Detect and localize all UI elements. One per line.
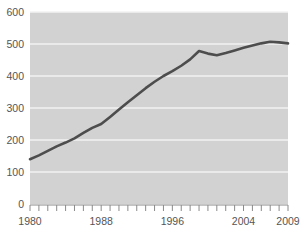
chart-canvas: 0100200300400500600 19801988199620042009 bbox=[0, 0, 304, 235]
y-tick-label-500: 500 bbox=[6, 38, 24, 50]
x-tick-label-1980: 1980 bbox=[18, 215, 42, 227]
y-tick-label-400: 400 bbox=[6, 70, 24, 82]
y-tick-label-0: 0 bbox=[18, 198, 24, 210]
x-tick-label-1988: 1988 bbox=[89, 215, 113, 227]
x-axis-tick-marks bbox=[30, 205, 288, 211]
y-tick-label-200: 200 bbox=[6, 134, 24, 146]
x-tick-label-1996: 1996 bbox=[161, 215, 185, 227]
y-tick-label-600: 600 bbox=[6, 6, 24, 18]
y-tick-label-100: 100 bbox=[6, 166, 24, 178]
x-tick-label-2004: 2004 bbox=[232, 215, 256, 227]
x-tick-label-2009: 2009 bbox=[276, 215, 300, 227]
y-axis-tick-labels: 0100200300400500600 bbox=[6, 6, 24, 210]
line-chart: 0100200300400500600 19801988199620042009 bbox=[0, 0, 304, 235]
x-axis-tick-labels: 19801988199620042009 bbox=[18, 215, 300, 227]
y-tick-label-300: 300 bbox=[6, 102, 24, 114]
